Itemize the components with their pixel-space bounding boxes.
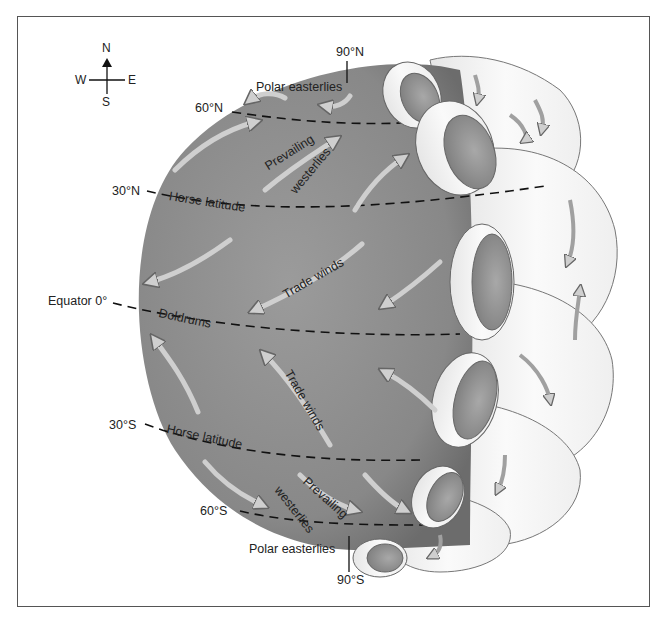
compass-west-label: W bbox=[75, 74, 86, 86]
compass-south-label: S bbox=[102, 96, 110, 108]
latitude-60s-label: 60°S bbox=[200, 505, 227, 518]
latitude-90s-label: 90°S bbox=[337, 574, 364, 587]
polar-easterlies-south-label: Polar easterlies bbox=[249, 543, 335, 556]
latitude-30s-label: 30°S bbox=[109, 419, 136, 432]
compass-north-label: N bbox=[102, 42, 111, 54]
compass-east-label: E bbox=[128, 74, 136, 86]
latitude-equator-label: Equator 0° bbox=[48, 295, 107, 308]
polar-easterlies-north-label: Polar easterlies bbox=[256, 81, 342, 94]
latitude-30n-label: 30°N bbox=[112, 185, 140, 198]
compass-rose bbox=[89, 58, 125, 94]
latitude-60n-label: 60°N bbox=[195, 102, 223, 115]
latitude-90n-label: 90°N bbox=[336, 46, 364, 59]
